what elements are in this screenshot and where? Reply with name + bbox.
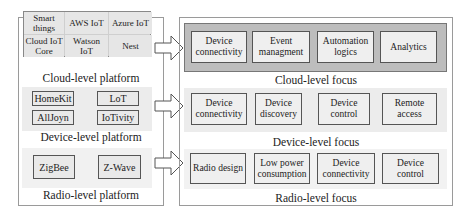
cloud-focus-label: Cloud-level focus [179, 74, 453, 86]
device-platform-alljoyn: AllJoyn [32, 110, 74, 125]
device-focus-device-discovery: Device discovery [255, 93, 302, 125]
cloud-platform-label: Cloud-level platform [18, 72, 164, 84]
device-platform-iotivity: IoTivity [97, 110, 139, 125]
cloud-focus-event-management: Event managment [252, 31, 310, 63]
radio-focus-label: Radio-level focus [179, 192, 453, 204]
cloud-focus-automation-logics: Automation logics [317, 31, 374, 63]
radio-focus-radio-design: Radio design [190, 153, 246, 184]
device-focus-device-control: Device control [318, 93, 370, 125]
device-platform-homekit: HomeKit [32, 91, 74, 106]
cloud-focus-device-connectivity: Device connectivity [191, 31, 247, 63]
cloud-platform-watson-iot: Watson IoT [65, 35, 108, 57]
cloud-platform-azure-iot: Azure IoT [109, 12, 152, 34]
device-focus-remote-access: Remote access [382, 93, 437, 125]
device-focus-device-connectivity: Device connectivity [191, 93, 247, 125]
radio-platform-z-wave: Z-Wave [98, 155, 141, 179]
cloud-focus-analytics: Analytics [380, 31, 437, 63]
radio-focus-low-power-consumption: Low power consumption [254, 153, 310, 184]
radio-platform-zigbee: ZigBee [33, 155, 75, 179]
cloud-platform-nest: Nest [109, 35, 152, 57]
cloud-platform-smartthings: Smart things [24, 12, 64, 34]
device-platform-label: Device-level platform [18, 131, 164, 143]
cloud-platform-cloud-iot-core: Cloud IoT Core [24, 35, 64, 57]
device-platform-lot: LoT [97, 91, 139, 106]
cloud-platform-grid: Smart things AWS IoT Azure IoT Cloud IoT… [23, 11, 151, 57]
radio-platform-label: Radio-level platform [18, 189, 164, 201]
radio-focus-device-control: Device control [382, 153, 439, 184]
cloud-platform-aws-iot: AWS IoT [65, 12, 108, 34]
radio-focus-device-connectivity: Device connectivity [317, 153, 375, 184]
device-focus-label: Device-level focus [179, 136, 453, 148]
